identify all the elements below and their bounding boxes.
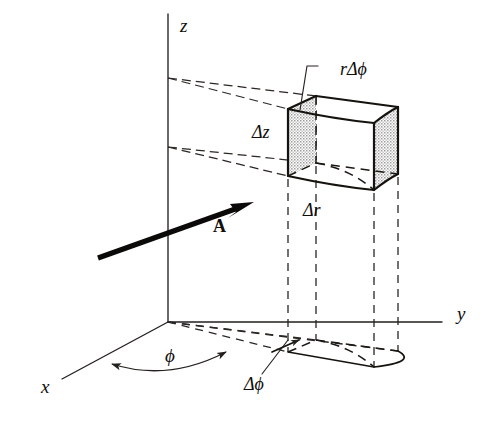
dphi-pointer-arrow bbox=[272, 340, 299, 352]
perspective-ray-upper-2 bbox=[168, 78, 288, 109]
base-edge-near-left bbox=[288, 352, 374, 367]
radial-line-near bbox=[168, 322, 316, 340]
delta-z-label: Δz bbox=[251, 122, 270, 142]
figure-root: z y x rΔϕ Δz Δr ϕ Δϕ A bbox=[0, 0, 502, 421]
labels-group: z y x rΔϕ Δz Δr ϕ Δϕ A bbox=[40, 15, 466, 397]
base-edge-near-right bbox=[374, 351, 404, 367]
perspective-ray-upper-1 bbox=[168, 78, 316, 96]
box-bottom-edge-front-arc bbox=[288, 176, 374, 190]
base-projection-quad bbox=[288, 340, 404, 367]
leader-line-dphi bbox=[262, 340, 288, 374]
z-axis-label: z bbox=[179, 15, 188, 36]
base-edge-inner-arc bbox=[316, 340, 374, 367]
vector-A-arrow bbox=[98, 202, 254, 258]
perspective-ray-lower-2 bbox=[168, 147, 288, 176]
axes-group bbox=[62, 14, 442, 379]
vector-A-label: A bbox=[213, 216, 226, 236]
perspective-ray-group-upper bbox=[168, 78, 316, 109]
base-edge-left-back bbox=[288, 340, 316, 352]
radial-line-inner bbox=[168, 322, 288, 352]
delta-phi-label: Δϕ bbox=[243, 374, 264, 394]
y-axis-label: y bbox=[455, 303, 466, 324]
cylindrical-volume-element-figure: z y x rΔϕ Δz Δr ϕ Δϕ A bbox=[0, 0, 502, 421]
x-axis-label: x bbox=[40, 376, 50, 397]
r-dphi-label: rΔϕ bbox=[340, 59, 367, 79]
delta-r-label: Δr bbox=[302, 200, 322, 220]
volume-element-box bbox=[288, 96, 398, 190]
box-top-edge-back bbox=[316, 96, 398, 107]
phi-label: ϕ bbox=[165, 345, 175, 366]
